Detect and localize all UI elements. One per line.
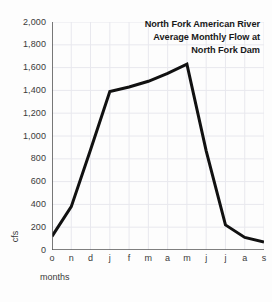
y-axis-tick-label: 1,400 — [8, 86, 46, 95]
x-axis-tick-labels: ondjfmamjjas — [52, 254, 264, 270]
chart-title-line: North Fork Dam — [108, 44, 260, 57]
y-axis-tick-label: 1,000 — [8, 132, 46, 141]
x-axis-tick-label: n — [61, 254, 81, 263]
y-axis-title: cfs — [11, 217, 20, 257]
x-axis-tick-label: a — [235, 254, 255, 263]
x-axis-title: months — [40, 273, 70, 282]
chart-title-line: North Fork American River — [108, 18, 260, 31]
y-axis-tick-label: 1,800 — [8, 40, 46, 49]
y-axis-tick-label: 600 — [8, 177, 46, 186]
chart-figure: 02004006008001,0001,2001,4001,6001,8002,… — [0, 0, 272, 302]
x-axis-tick-label: s — [254, 254, 272, 263]
x-axis-tick-label: j — [100, 254, 120, 263]
x-axis-tick-label: d — [81, 254, 101, 263]
x-axis-tick-label: j — [215, 254, 235, 263]
y-axis-tick-labels: 02004006008001,0001,2001,4001,6001,8002,… — [8, 0, 46, 302]
x-axis-tick-label: m — [138, 254, 158, 263]
x-axis-tick-label: m — [177, 254, 197, 263]
chart-title-line: Average Monthly Flow at — [108, 31, 260, 44]
y-axis-tick-label: 2,000 — [8, 18, 46, 27]
x-axis-tick-label: o — [42, 254, 62, 263]
x-axis-tick-label: j — [196, 254, 216, 263]
chart-title: North Fork American RiverAverage Monthly… — [108, 18, 260, 57]
y-axis-tick-label: 400 — [8, 200, 46, 209]
y-axis-tick-label: 800 — [8, 154, 46, 163]
y-axis-tick-label: 1,200 — [8, 109, 46, 118]
x-axis-tick-label: a — [158, 254, 178, 263]
y-axis-tick-label: 1,600 — [8, 63, 46, 72]
x-axis-tick-label: f — [119, 254, 139, 263]
